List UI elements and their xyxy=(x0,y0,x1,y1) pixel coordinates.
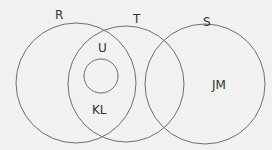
circle-t xyxy=(68,26,184,142)
circle-s xyxy=(145,24,265,144)
label-r: R xyxy=(55,8,63,22)
region-label-kl: KL xyxy=(92,103,107,117)
circle-inner xyxy=(84,59,118,93)
region-label-u: U xyxy=(98,41,107,55)
venn-diagram: R T S U KL JM xyxy=(0,0,272,150)
label-t: T xyxy=(132,12,141,26)
label-s: S xyxy=(203,15,211,29)
circle-r xyxy=(16,23,136,143)
region-label-jm: JM xyxy=(211,78,226,92)
